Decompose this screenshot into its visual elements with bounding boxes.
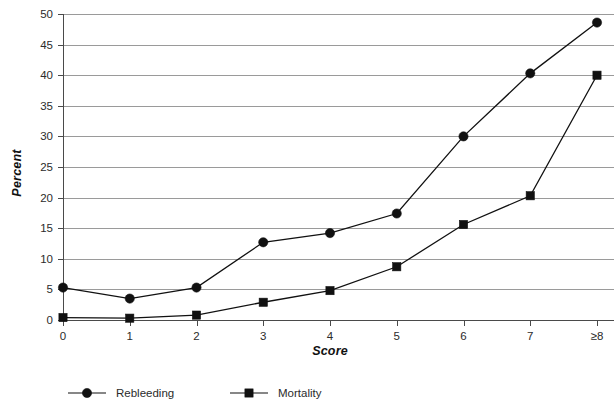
y-axis-tick-labels: 05101520253035404550	[40, 8, 53, 326]
legend-label-mortality: Mortality	[278, 387, 322, 399]
y-axis	[58, 14, 64, 321]
x-axis-title: Score	[312, 344, 348, 358]
data-point-rebleeding-0	[58, 283, 67, 292]
data-point-rebleeding-1	[125, 294, 134, 303]
y-axis-tick-label: 20	[40, 192, 53, 204]
chart-container: 05101520253035404550 01234567≥8 Rebleedi…	[0, 0, 614, 411]
legend-label-rebleeding: Rebleeding	[116, 387, 174, 399]
x-axis-tick-label: 3	[260, 330, 266, 342]
data-point-mortality-6	[459, 220, 467, 228]
x-axis-tick-label: 6	[460, 330, 466, 342]
y-axis-tick-label: 25	[40, 161, 53, 173]
y-axis-tick-label: 30	[40, 130, 53, 142]
x-axis	[63, 320, 614, 326]
y-axis-tick-label: 50	[40, 8, 53, 20]
data-point-rebleeding-2	[192, 283, 201, 292]
x-axis-tick-label: 7	[527, 330, 533, 342]
legend-marker-circle-icon	[82, 388, 91, 397]
data-point-mortality-7	[526, 192, 534, 200]
x-axis-tick-label: 4	[327, 330, 334, 342]
data-point-mortality-1	[126, 314, 134, 322]
data-point-mortality-≥8	[593, 71, 601, 79]
series-lines	[63, 23, 597, 319]
data-point-mortality-0	[59, 313, 67, 321]
data-point-rebleeding-6	[459, 132, 468, 141]
line-chart: 05101520253035404550 01234567≥8 Rebleedi…	[0, 0, 614, 411]
x-axis-tick-label: 0	[60, 330, 66, 342]
legend: RebleedingMortality	[68, 387, 322, 399]
y-axis-tick-label: 15	[40, 222, 53, 234]
data-point-mortality-2	[192, 311, 200, 319]
data-point-rebleeding-4	[325, 228, 334, 237]
gridlines	[63, 15, 614, 321]
y-axis-tick-label: 35	[40, 100, 53, 112]
x-axis-tick-label: ≥8	[591, 330, 604, 342]
y-axis-title: Percent	[10, 149, 24, 197]
x-axis-tick-label: 1	[127, 330, 133, 342]
y-axis-tick-label: 45	[40, 39, 53, 51]
data-point-rebleeding-≥8	[592, 18, 601, 27]
y-axis-tick-label: 5	[47, 283, 53, 295]
y-axis-tick-label: 0	[47, 314, 53, 326]
series-line-mortality	[63, 75, 597, 318]
y-axis-tick-label: 40	[40, 69, 53, 81]
x-axis-tick-label: 5	[394, 330, 400, 342]
x-axis-tick-label: 2	[193, 330, 199, 342]
data-point-markers	[58, 18, 601, 322]
x-axis-tick-labels: 01234567≥8	[60, 330, 604, 342]
legend-marker-square-icon	[245, 389, 253, 397]
data-point-mortality-3	[259, 298, 267, 306]
data-point-rebleeding-3	[259, 238, 268, 247]
data-point-mortality-4	[326, 287, 334, 295]
data-point-rebleeding-5	[392, 209, 401, 218]
y-axis-tick-label: 10	[40, 253, 53, 265]
series-line-rebleeding	[63, 23, 597, 299]
data-point-rebleeding-7	[526, 69, 535, 78]
data-point-mortality-5	[393, 263, 401, 271]
